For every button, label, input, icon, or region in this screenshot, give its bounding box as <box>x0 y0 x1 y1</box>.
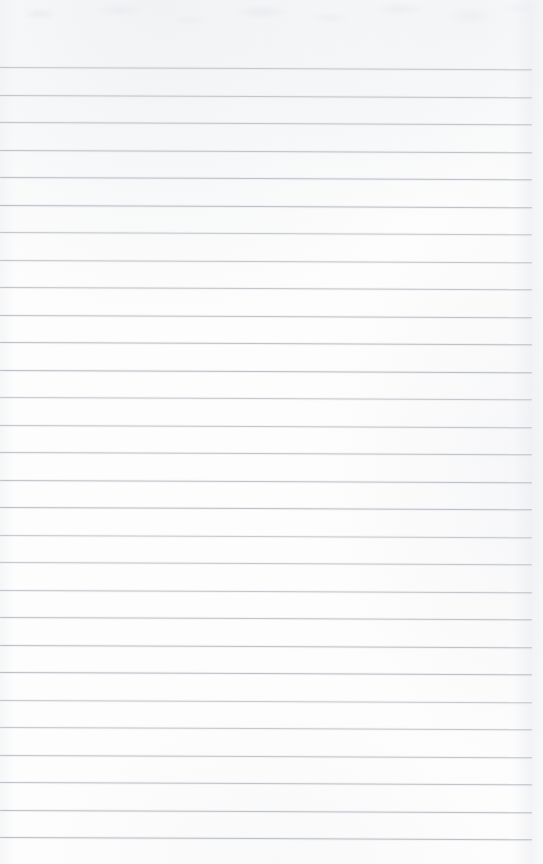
ruled-line <box>0 397 532 400</box>
ruled-line <box>0 672 532 675</box>
ruled-lines-layer <box>0 0 543 864</box>
ruled-line <box>0 837 532 840</box>
ruled-line <box>0 645 532 648</box>
ruled-line <box>0 95 532 98</box>
ruled-line <box>0 177 532 180</box>
ruled-line <box>0 727 532 730</box>
ruled-line <box>0 535 532 538</box>
ruled-line <box>0 507 532 510</box>
ruled-line <box>0 150 532 153</box>
ruled-line <box>0 287 532 290</box>
ruled-line <box>0 810 532 813</box>
ruled-line <box>0 425 532 428</box>
ruled-line <box>0 232 532 235</box>
ruled-line <box>0 480 532 483</box>
ruled-line <box>0 205 532 208</box>
ruled-line <box>0 67 532 70</box>
ruled-line <box>0 260 532 263</box>
ruled-line <box>0 700 532 703</box>
ruled-line <box>0 315 532 318</box>
ruled-line <box>0 590 532 593</box>
ruled-line <box>0 122 532 125</box>
ruled-line <box>0 782 532 785</box>
ruled-line <box>0 562 532 565</box>
scanned-page <box>0 0 543 864</box>
ruled-line <box>0 755 532 758</box>
ruled-line <box>0 452 532 455</box>
ruled-line <box>0 617 532 620</box>
ruled-line <box>0 342 532 345</box>
ruled-line <box>0 370 532 373</box>
